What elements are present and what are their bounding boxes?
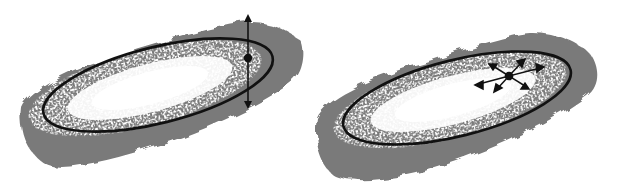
right-illustration [315,0,630,193]
panel-right [315,0,630,193]
panel-left [0,0,315,193]
left-illustration [0,0,315,193]
control-point [505,72,512,79]
control-point [244,54,252,62]
